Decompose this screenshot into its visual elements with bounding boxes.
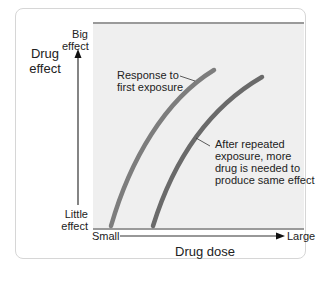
- x-axis-left-label: Small: [92, 230, 120, 242]
- y-bottom-line2: effect: [58, 220, 88, 232]
- y-axis-title-line1: Drug: [28, 46, 62, 61]
- annotation-first-line2: first exposure: [117, 81, 183, 93]
- x-axis-title: Drug dose: [175, 244, 235, 259]
- x-axis-right-label: Large: [287, 230, 315, 242]
- y-axis-title: Drug effect: [28, 46, 62, 76]
- y-axis-top-label: Big effect: [62, 28, 88, 52]
- annotation-second-line2: exposure, more: [215, 150, 314, 162]
- annotation-first-exposure: Response to first exposure: [117, 69, 183, 93]
- leader-line-repeated: [196, 138, 210, 146]
- annotation-second-line1: After repeated: [215, 138, 314, 150]
- y-axis-title-line2: effect: [28, 61, 62, 76]
- annotation-first-line1: Response to: [117, 69, 183, 81]
- annotation-second-line4: produce same effect: [215, 174, 314, 186]
- annotation-second-line3: drug is needed to: [215, 162, 314, 174]
- y-top-line1: Big: [62, 28, 88, 40]
- y-bottom-line1: Little: [58, 208, 88, 220]
- annotation-repeated-exposure: After repeated exposure, more drug is ne…: [215, 138, 314, 186]
- y-top-line2: effect: [62, 40, 88, 52]
- x-axis-arrowhead-icon: [276, 233, 285, 240]
- y-axis-bottom-label: Little effect: [58, 208, 88, 232]
